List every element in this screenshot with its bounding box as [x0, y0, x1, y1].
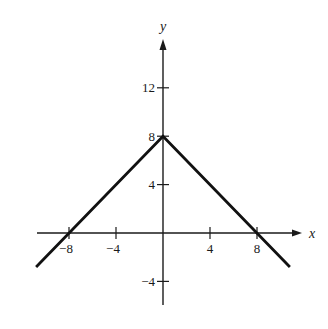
chart: −8−4481284−4 x y — [0, 0, 328, 329]
x-tick-label: −8 — [59, 241, 73, 256]
x-tick-label: −4 — [106, 241, 120, 256]
x-axis-arrow-icon — [292, 230, 302, 237]
y-axis-arrow-icon — [160, 39, 167, 50]
y-tick-label: 8 — [149, 129, 156, 144]
ticks: −8−4481284−4 — [59, 80, 260, 289]
x-tick-label: 8 — [254, 241, 261, 256]
axes — [37, 39, 302, 305]
y-axis-label: y — [158, 19, 167, 34]
y-tick-label: 4 — [149, 177, 156, 192]
x-axis-label: x — [308, 226, 316, 241]
x-tick-label: 4 — [207, 241, 214, 256]
y-tick-label: 12 — [142, 80, 155, 95]
y-tick-label: −4 — [141, 274, 155, 289]
